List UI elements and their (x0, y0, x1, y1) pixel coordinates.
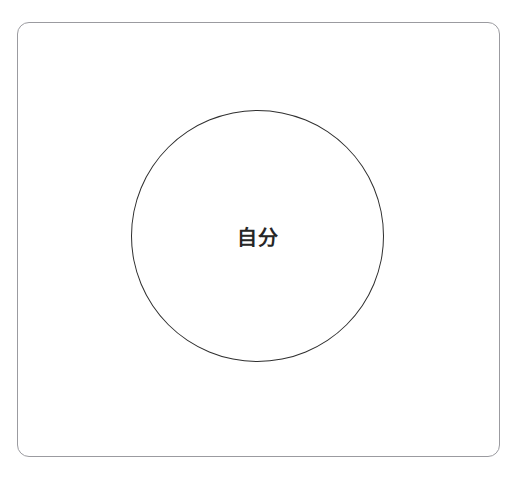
venn-circle-self: 自分 (131, 110, 384, 362)
diagram-card: 自分 (17, 22, 500, 457)
venn-circle-self-label: 自分 (237, 227, 279, 249)
clipped-text-strip: ーーーーーーーーーーーーーーーーーーーーーーーーーー (0, 0, 515, 12)
